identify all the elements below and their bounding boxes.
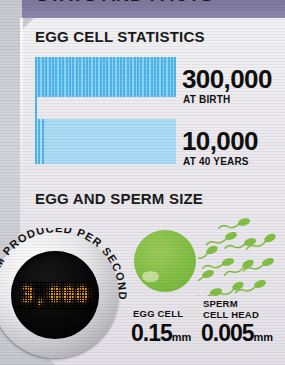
value-sperm-head-size: 0.005mm: [201, 322, 273, 345]
label-sperm-cell-head: SPERM CELL HEAD: [203, 298, 259, 320]
sperm-label-line1: SPERM: [203, 298, 238, 309]
sperm-size-unit: mm: [254, 331, 274, 343]
gauge-caption-text: SPERM PRODUCED PER SECOND: [0, 228, 128, 303]
section-heading-egg-cell-statistics: EGG CELL STATISTICS: [35, 28, 205, 45]
egg-size-number: 0.15: [131, 320, 172, 346]
bar-stripe-band: [35, 119, 44, 164]
value-at-birth: 300,000: [182, 66, 272, 92]
sperm-illustration-group: [198, 216, 284, 296]
value-at-40-years: 10,000: [182, 128, 258, 154]
sperm-cell: [198, 244, 219, 265]
section-heading-egg-and-sperm-size: EGG AND SPERM SIZE: [35, 190, 203, 207]
infographic-root: STATS AND FACTS EGG CELL STATISTICS 300,…: [0, 0, 285, 365]
egg-cell-illustration: [134, 230, 196, 292]
page-title: STATS AND FACTS: [36, 0, 285, 8]
sperm-cell: [218, 217, 251, 233]
bar-at-40-years: [35, 119, 176, 164]
sperm-size-number: 0.005: [201, 320, 254, 346]
sperm-label-line2: CELL HEAD: [203, 309, 259, 320]
caption-at-40-years: AT 40 YEARS: [183, 157, 249, 167]
label-egg-cell: EGG CELL: [133, 308, 183, 319]
sperm-cell: [202, 257, 235, 273]
egg-nucleus: [142, 271, 159, 282]
sperm-cell: [213, 280, 245, 296]
value-egg-cell-size: 0.15mm: [131, 322, 191, 345]
bar-at-birth: [35, 57, 176, 97]
sperm-cell: [198, 287, 223, 296]
gauge-caption-curved: SPERM PRODUCED PER SECOND: [0, 228, 128, 364]
sperm-cell: [198, 268, 215, 287]
egg-size-unit: mm: [172, 331, 192, 343]
caption-at-birth: AT BIRTH: [183, 95, 231, 105]
